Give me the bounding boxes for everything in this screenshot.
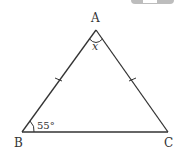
vertex-label-c: C [164, 136, 173, 150]
side-ac [96, 30, 168, 132]
vertex-label-b: B [14, 136, 23, 150]
angle-label-x: x [92, 40, 99, 53]
angle-label-b: 55° [37, 120, 55, 131]
equal-side-ticks [55, 78, 136, 81]
top-right-tab-inner [143, 0, 157, 3]
side-ab [22, 30, 96, 132]
vertex-label-a: A [90, 11, 100, 25]
angle-arc-b [30, 121, 34, 132]
triangle-diagram: A B C x 55° [0, 0, 183, 154]
